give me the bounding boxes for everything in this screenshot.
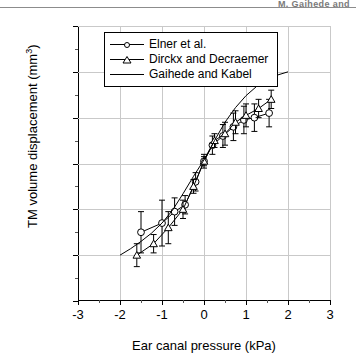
legend-label: Elner et al. bbox=[149, 38, 206, 51]
data-point-circle bbox=[138, 229, 145, 236]
series-line bbox=[141, 113, 269, 232]
legend-item-elner: Elner et al. bbox=[110, 37, 268, 52]
gridline-vertical bbox=[330, 26, 331, 301]
x-tick-label: -1 bbox=[142, 308, 182, 321]
legend-marker-triangle-icon bbox=[110, 53, 144, 66]
x-tick-label: 1 bbox=[226, 308, 266, 321]
running-head: M. Gaihede and bbox=[278, 0, 350, 7]
x-tick-label: 3 bbox=[310, 308, 350, 321]
x-tick-label: 2 bbox=[268, 308, 308, 321]
figure-page: M. Gaihede and TM volume displacement (m… bbox=[0, 0, 356, 360]
legend-label: Dirckx and Decraemer bbox=[149, 53, 268, 66]
legend-marker-circle-icon bbox=[110, 38, 144, 51]
chart-figure: TM volume displacement (mm3) Ear canal p… bbox=[0, 8, 356, 360]
legend-item-gaihede: Gaihede and Kabel bbox=[110, 67, 268, 82]
series-line bbox=[137, 99, 271, 255]
x-tick-label: -2 bbox=[100, 308, 140, 321]
legend-marker-line-icon bbox=[110, 68, 144, 81]
data-point-triangle bbox=[242, 112, 250, 119]
data-point-triangle bbox=[232, 119, 240, 126]
data-point-triangle bbox=[255, 105, 263, 112]
data-point-circle bbox=[266, 110, 273, 117]
x-tick-label: 0 bbox=[184, 308, 224, 321]
x-axis-title: Ear canal pressure (kPa) bbox=[78, 338, 330, 353]
y-tick bbox=[73, 301, 78, 302]
chart-legend: Elner et al. Dirckx and Decraemer bbox=[104, 32, 278, 87]
series-elner-et-al bbox=[138, 99, 273, 253]
x-tick-label: -3 bbox=[58, 308, 98, 321]
y-axis-title: TM volume displacement (mm3) bbox=[24, 16, 40, 256]
data-point-circle bbox=[171, 208, 178, 215]
plot-area: -3-2-10123-30-20-100102030 Elner et al. bbox=[78, 26, 330, 301]
x-tick bbox=[330, 300, 331, 305]
legend-item-dirckx: Dirckx and Decraemer bbox=[110, 52, 268, 67]
legend-label: Gaihede and Kabel bbox=[149, 68, 252, 81]
